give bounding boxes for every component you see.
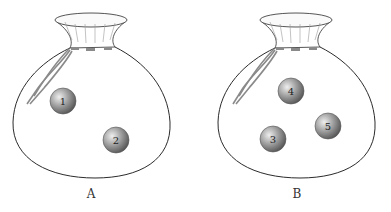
bag-a: 1 2 [13, 13, 170, 178]
bag-b-label: B [287, 187, 307, 201]
bag-a-label: A [81, 187, 101, 201]
ball-2-number: 2 [113, 135, 119, 146]
ball-5-number: 5 [325, 121, 331, 132]
ball-3-number: 3 [270, 134, 276, 145]
bag-b-opening [260, 13, 332, 27]
ball-3: 3 [260, 126, 286, 152]
bag-a-body [13, 47, 170, 178]
bag-b-body [218, 47, 375, 178]
bags-diagram: 1 2 4 3 [0, 0, 391, 212]
ball-5: 5 [315, 113, 341, 139]
bag-a-opening [55, 13, 127, 27]
ball-4-number: 4 [288, 86, 294, 97]
bag-b: 4 3 5 [218, 13, 375, 178]
ball-1-number: 1 [60, 96, 66, 107]
ball-1: 1 [50, 88, 76, 114]
ball-2: 2 [103, 127, 129, 153]
ball-4: 4 [278, 78, 304, 104]
